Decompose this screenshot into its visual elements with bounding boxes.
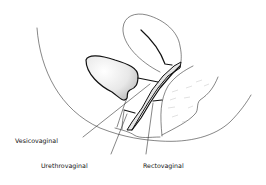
rectovaginal-leader: [146, 103, 153, 154]
rectovaginal-label: Rectovaginal: [143, 162, 184, 170]
bladder: [86, 56, 138, 100]
perineal-floor: [115, 128, 160, 138]
urethrovaginal-leader: [111, 114, 127, 154]
uterus-outline: [123, 14, 181, 72]
uterine-cavity: [141, 30, 172, 65]
rectum-shading: [182, 84, 209, 122]
urethrovaginal-label: Urethrovaginal: [41, 162, 88, 170]
rectum-wisps: [168, 80, 202, 117]
vesicovaginal-septum: [138, 78, 158, 82]
vaginal-wall-inner: [132, 66, 180, 130]
vesicovaginal-label: Vesicovaginal: [15, 137, 58, 145]
urethrovaginal-septum: [124, 110, 135, 113]
pelvic-outline: [37, 28, 251, 141]
rectum-outer: [162, 77, 218, 135]
septa-diagram: Vesicovaginal Urethrovaginal Rectovagina…: [0, 0, 266, 185]
rectovaginal-septum: [153, 100, 162, 101]
urethra-anterior: [117, 98, 127, 127]
